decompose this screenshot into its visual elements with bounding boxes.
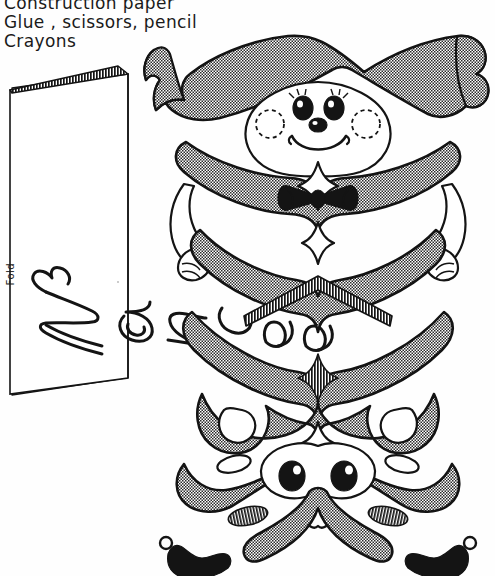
folded-card: Fold [0,60,160,400]
card-front-panel [10,74,128,394]
lower-left-eye-highlight [293,465,301,474]
legs [244,488,393,561]
left-eye [293,96,313,120]
lower-right-eye [331,461,357,491]
lower-right-eye-highlight [345,465,353,474]
lower-inner-loop-right [381,408,417,443]
left-shoe [160,537,231,576]
right-eye [324,96,344,120]
figure-svg [140,24,495,576]
lower-inner-loop-left [219,408,255,443]
name-creature-figure [140,24,495,576]
lower-left-white-oval [216,452,253,476]
lower-right-cheek [367,503,410,529]
lower-right-white-oval [384,452,421,476]
nose-highlight [312,121,317,125]
lower-left-cheek [227,503,270,529]
worksheet-page: Construction paper Glue , scissors, penc… [0,0,495,576]
fold-label: Fold [5,246,16,286]
right-eye-highlight [328,100,334,107]
card-pencil-dot [117,281,119,283]
diamond-mid [302,222,334,264]
left-eye-highlight [297,100,303,107]
card-svg [0,60,160,400]
right-shoe [405,537,476,576]
nose [309,118,327,132]
lower-left-eye [279,461,305,491]
